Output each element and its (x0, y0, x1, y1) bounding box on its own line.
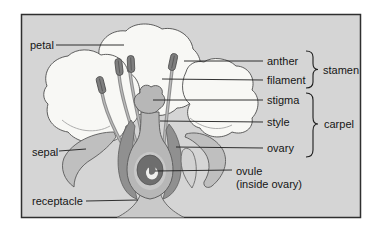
label-sepal: sepal (32, 146, 58, 158)
label-anther: anther (267, 55, 299, 67)
petal-right (183, 59, 258, 137)
label-receptacle: receptacle (32, 195, 83, 207)
label-style: style (267, 116, 290, 128)
label-filament: filament (267, 74, 306, 86)
label-carpel: carpel (324, 118, 354, 130)
label-ovule-note: (inside ovary) (236, 178, 302, 190)
diagram-canvas: petal anther filament stamen stigma styl… (0, 0, 386, 238)
label-petal: petal (30, 39, 54, 51)
anther (127, 55, 135, 72)
label-ovary: ovary (267, 142, 294, 154)
label-ovule: ovule (236, 165, 262, 177)
label-stamen: stamen (323, 64, 359, 76)
flower-anatomy-figure: petal anther filament stamen stigma styl… (0, 0, 386, 238)
label-stigma: stigma (267, 94, 300, 106)
